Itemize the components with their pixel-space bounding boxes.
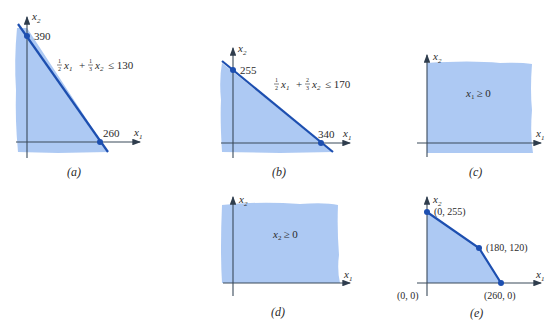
svg-text:≤ 170: ≤ 170 (325, 78, 351, 90)
caption-d: (d) (271, 305, 285, 319)
svg-text:1: 1 (58, 58, 61, 64)
intercept-label-b-x1: 340 (318, 128, 335, 140)
svg-text:x1: x1 (63, 59, 72, 73)
intercept-label-b-x2: 255 (240, 64, 257, 76)
caption-b: (b) (272, 165, 286, 179)
panel-b: x2 x1 255 340 1 2 x1 + 2 3 x2 ≤ 170 (b) (220, 42, 351, 179)
vertex-label-180-120: (180, 120) (486, 242, 528, 254)
x-axis-label-d: x1 (343, 268, 352, 283)
panel-c: x2 x1 x1≥ 0 (c) (417, 50, 544, 179)
constraint-label-b: 1 2 x1 + 2 3 x2 ≤ 170 (274, 77, 351, 92)
svg-text:3: 3 (306, 85, 309, 91)
x-axis-label-b: x1 (342, 127, 351, 142)
vertex-0-255 (424, 209, 430, 215)
feasible-region-a (15, 28, 108, 153)
svg-text:≤ 130: ≤ 130 (108, 59, 134, 71)
vertex-260-0 (498, 280, 504, 286)
intercept-point-a-x2 (24, 33, 30, 39)
svg-text:3: 3 (89, 66, 92, 72)
feasible-region-d (221, 203, 340, 283)
svg-text:x2: x2 (94, 59, 104, 73)
caption-a: (a) (67, 165, 81, 179)
svg-text:x2: x2 (311, 78, 321, 92)
x-axis-label-a: x1 (133, 126, 142, 141)
feasible-region-c (427, 62, 533, 154)
panel-e: x2 x1 (0, 0) (0, 255) (180, 120) (260, 0… (397, 193, 544, 320)
svg-text:2: 2 (275, 85, 278, 91)
x-axis-label-c: x1 (535, 127, 544, 142)
svg-text:+: + (296, 78, 302, 90)
vertex-label-origin: (0, 0) (397, 290, 419, 302)
feasible-region-figure: x2 x1 390 260 1 2 x1 + 1 3 x2 ≤ 130 (a) … (0, 0, 555, 326)
vertex-label-260-0: (260, 0) (484, 290, 516, 302)
svg-text:1: 1 (275, 77, 278, 83)
constraint-label-d: x2≥ 0 (272, 228, 298, 242)
svg-text:x1: x1 (280, 78, 289, 92)
constraint-label-c: x1≥ 0 (465, 87, 491, 101)
x-axis-label-e: x1 (535, 268, 544, 283)
vertex-180-120 (476, 245, 482, 251)
y-axis-label-b: x2 (237, 42, 247, 57)
svg-text:1: 1 (89, 58, 92, 64)
panel-d: x2 x1 x2≥ 0 (d) (221, 193, 352, 319)
svg-text:2: 2 (306, 77, 309, 83)
intercept-label-a-x1: 260 (103, 127, 120, 139)
y-axis-label-a: x2 (31, 10, 41, 25)
caption-e: (e) (470, 306, 483, 320)
caption-c: (c) (469, 165, 482, 179)
panel-a: x2 x1 390 260 1 2 x1 + 1 3 x2 ≤ 130 (a) (15, 10, 142, 179)
intercept-point-b-x2 (230, 67, 236, 73)
svg-text:+: + (79, 59, 85, 71)
constraint-label-a: 1 2 x1 + 1 3 x2 ≤ 130 (57, 58, 134, 73)
intercept-point-a-x1 (97, 139, 103, 145)
intercept-label-a-x2: 390 (34, 30, 51, 42)
intercept-point-b-x1 (318, 140, 324, 146)
vertex-label-0-255: (0, 255) (434, 206, 466, 218)
svg-text:2: 2 (58, 66, 61, 72)
